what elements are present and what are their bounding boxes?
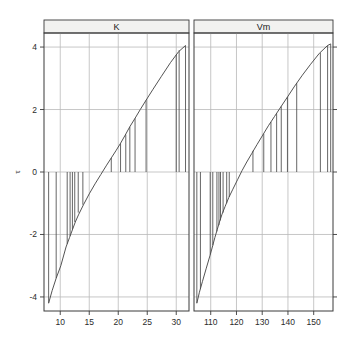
chart-root: K1015202530Vm110120130140150420-2-4τ bbox=[0, 0, 354, 349]
x-tick-label-1-3: 140 bbox=[281, 317, 295, 327]
x-tick-label-1-4: 150 bbox=[307, 317, 321, 327]
x-tick-label-1-2: 130 bbox=[255, 317, 269, 327]
drop-lines-vm bbox=[197, 44, 331, 303]
y-tick-label-2: 0 bbox=[32, 167, 37, 177]
strip-label-k: K bbox=[113, 22, 119, 32]
x-tick-label-0-3: 25 bbox=[143, 317, 153, 327]
drop-lines-k bbox=[49, 45, 186, 303]
quantile-plot-figure: K1015202530Vm110120130140150420-2-4τ bbox=[0, 0, 354, 349]
x-tick-label-0-4: 30 bbox=[172, 317, 182, 327]
x-tick-label-0-2: 20 bbox=[114, 317, 124, 327]
strip-label-vm: Vm bbox=[257, 22, 271, 32]
y-tick-label-4: -4 bbox=[29, 292, 37, 302]
x-tick-label-1-1: 120 bbox=[229, 317, 243, 327]
x-tick-label-0-0: 10 bbox=[56, 317, 66, 327]
y-tick-label-0: 4 bbox=[32, 42, 37, 52]
y-axis-title: τ bbox=[12, 170, 22, 174]
y-tick-label-1: 2 bbox=[32, 105, 37, 115]
x-tick-label-1-0: 110 bbox=[204, 317, 218, 327]
y-tick-label-3: -2 bbox=[29, 229, 37, 239]
x-tick-label-0-1: 15 bbox=[85, 317, 95, 327]
data-curve-k bbox=[49, 45, 186, 303]
